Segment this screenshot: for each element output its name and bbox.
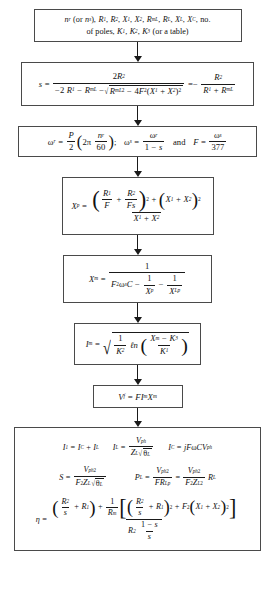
flow-arrow (132, 106, 143, 126)
xp-equation-box: Xp= ( R1F+R2Fs )2 + ( X1+X2 )2 X1+X2 (62, 177, 214, 235)
ic-equation: IC=jFωCVph (168, 443, 212, 452)
flow-arrow (132, 303, 143, 323)
output-equations: I1=IC+IL IL= Vph ZL√θL IC=jFωCVph S= Vph… (15, 437, 260, 542)
output-row-efficiency: η= ( R2s+R1 ) + 1Rm [ ( R2s+R1 (15, 498, 260, 542)
input-parameters-box: nr(orns),R1,R2,X1,X2,RmL,RL,XL,XC,no. of… (34, 9, 242, 42)
flow-arrow (132, 408, 143, 427)
angular-velocity-equations: ωr= P2 ( 2πnr60 ) ; ωs= ωr1−s and F= ωs3… (48, 131, 227, 152)
output-equations-box: I1=IC+IL IL= Vph ZL√θL IC=jFωCVph S= Vph… (14, 427, 261, 551)
pl-load-power-equation: PL= Vph2FRLp = Vph2F2ZL2 RL (135, 467, 216, 487)
flow-arrow (132, 365, 143, 385)
flowchart: nr(orns),R1,R2,X1,X2,RmL,RL,XL,XC,no. of… (0, 0, 275, 616)
input-parameters-line-1: nr(orns),R1,R2,X1,X2,RmL,RL,XL,XC,no. (65, 14, 211, 26)
il-equation: IL= Vph ZL√θL (113, 437, 155, 459)
flow-arrow (132, 42, 143, 62)
i1-equation: I1=IC+IL (63, 443, 99, 452)
flow-arrow (132, 157, 143, 177)
im-equation: Im= √ 1K2 ℓn ( Xm−K3K1 ) (86, 332, 190, 355)
vf-equation: Vf=FImXm (118, 392, 157, 402)
output-row-currents: I1=IC+IL IL= Vph ZL√θL IC=jFωCVph (15, 437, 260, 459)
efficiency-equation: η= ( R2s+R1 ) + 1Rm [ ( R2s+R1 (36, 498, 239, 542)
xm-equation-box: Xm= 1 F2ωsC− 1Xp − 1XLp (63, 255, 212, 303)
output-row-power: S= Vph2 F2ZL√θL PL= Vph2FRLp = Vph2F2ZL2… (15, 466, 260, 488)
im-equation-box: Im= √ 1K2 ℓn ( Xm−K3K1 ) (74, 323, 201, 365)
input-parameters-text: nr(orns),R1,R2,X1,X2,RmL,RL,XL,XC,no. of… (35, 14, 241, 37)
slip-equation: s= 2R2 −2R1−RmL− √RmL2−4F2(X1+X2)2 =− R2… (39, 72, 236, 95)
xp-equation: Xp= ( R1F+R2Fs )2 + ( X1+X2 )2 X1+X2 (71, 189, 203, 222)
s-apparent-power-equation: S= Vph2 F2ZL√θL (59, 466, 107, 488)
angular-velocity-box: ωr= P2 ( 2πnr60 ) ; ωs= ωr1−s and F= ωs3… (18, 126, 257, 157)
flow-arrow (132, 235, 143, 255)
vf-equation-box: Vf=FImXm (93, 385, 183, 408)
xm-equation: Xm= 1 F2ωsC− 1Xp − 1XLp (89, 262, 186, 295)
slip-equation-box: s= 2R2 −2R1−RmL− √RmL2−4F2(X1+X2)2 =− R2… (21, 62, 254, 106)
input-parameters-line-2: of poles,K1,K2,K3(or a table) (86, 26, 188, 38)
diagram-canvas: nr(orns),R1,R2,X1,X2,RmL,RL,XL,XC,no. of… (0, 0, 275, 616)
